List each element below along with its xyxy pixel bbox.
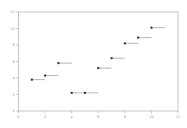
y-tick-label: 8 [13,43,16,47]
data-point-marker [124,42,126,44]
y-tick-label: 12 [10,10,15,14]
y-tick-label: 6 [13,60,16,64]
x-tick-label: 6 [97,115,100,119]
y-tick-label: 2 [13,93,15,97]
data-point-marker [71,92,73,94]
data-point-marker [84,92,86,94]
axes-spine [19,12,179,111]
x-tick-label: 2 [44,115,46,119]
data-point-marker [150,27,152,29]
x-tick-label: 0 [17,115,20,119]
x-axis-tick-labels: 024681012 [17,115,180,119]
data-point-marker [111,57,113,59]
scatter-plot-svg: 024681012 024681012 [0,0,187,128]
x-tick-label: 4 [71,115,74,119]
chart-figure: 024681012 024681012 [0,0,187,128]
axes-frame [19,12,179,111]
y-axis-tick-labels: 024681012 [10,10,15,113]
data-segments [32,28,165,93]
x-tick-label: 10 [149,115,154,119]
y-tick-label: 0 [13,109,16,113]
data-point-marker [97,67,99,69]
data-point-marker [44,75,46,77]
y-tick-label: 10 [10,27,15,31]
y-tick-label: 4 [13,76,16,80]
data-point-marker [137,37,139,39]
x-tick-label: 8 [124,115,127,119]
x-tick-label: 12 [176,115,181,119]
data-point-marker [31,79,33,81]
data-point-marker [57,62,59,64]
data-markers [31,27,153,94]
